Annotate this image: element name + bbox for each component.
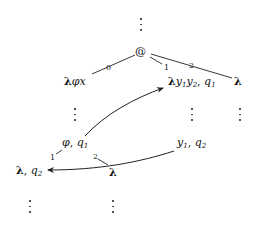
ellipsis-top bbox=[140, 18, 142, 35]
state-q: q bbox=[77, 136, 84, 149]
lambda-graph-diagram: @ λφx λy1y2, q1 λ φ, q1 y1, q2 λ, q2 λ 0… bbox=[0, 0, 258, 230]
subscript: 2 bbox=[38, 170, 42, 178]
edge-label-2-lower: 2 bbox=[93, 153, 98, 161]
arrow-phi-to-lam-y1y2 bbox=[85, 88, 163, 136]
lambda-symbol: λ bbox=[64, 75, 72, 88]
ellipsis-bottom-center bbox=[112, 200, 114, 217]
node-lam-mid: λ bbox=[109, 167, 117, 178]
edge-phi-to-lam-q2 bbox=[56, 150, 62, 154]
edge-label-0: 0 bbox=[106, 64, 111, 72]
separator: , bbox=[24, 164, 31, 177]
edges-layer bbox=[0, 0, 258, 230]
subscript: 2 bbox=[202, 142, 206, 150]
ellipsis-mid-center bbox=[191, 108, 193, 125]
node-phi-q1: φ, q1 bbox=[62, 137, 88, 148]
edge-label-2: 2 bbox=[189, 62, 194, 70]
state-q: q bbox=[31, 164, 38, 177]
separator: , bbox=[188, 136, 195, 149]
subscript: 1 bbox=[84, 142, 88, 150]
lambda-symbol: λ bbox=[16, 164, 24, 177]
node-lam-q2: λ, q2 bbox=[16, 165, 42, 176]
node-lam-phi-x-vars: φx bbox=[72, 75, 86, 88]
node-lam-y1y2-q1: λy1y2, q1 bbox=[168, 76, 216, 87]
ellipsis-mid-left bbox=[74, 108, 76, 125]
var-phi: φ bbox=[62, 136, 70, 149]
lambda-symbol: λ bbox=[168, 75, 176, 88]
node-lam-phi-x: λφx bbox=[64, 76, 86, 87]
subscript: 1 bbox=[211, 81, 215, 89]
edge-label-1-lower: 1 bbox=[50, 154, 55, 162]
separator: , bbox=[70, 136, 77, 149]
node-lam-right: λ bbox=[234, 76, 242, 87]
node-application-root: @ bbox=[135, 46, 146, 57]
edge-label-1: 1 bbox=[164, 64, 169, 72]
ellipsis-mid-right bbox=[239, 108, 241, 125]
edge-root-to-lam-phi-x bbox=[92, 55, 135, 74]
node-y1-q2: y1, q2 bbox=[177, 137, 206, 148]
edge-root-to-lam-y1y2 bbox=[150, 57, 162, 64]
edge-phi-to-lam-mid bbox=[98, 159, 108, 165]
ellipsis-bottom-left bbox=[29, 200, 31, 217]
state-q: q bbox=[195, 136, 202, 149]
